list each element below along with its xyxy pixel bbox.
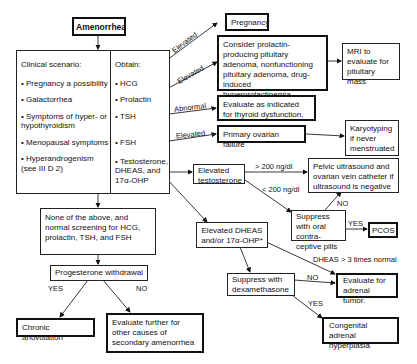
node-ovarian-failure: Primary ovarian failure <box>217 125 306 143</box>
edge-label-dexa-no: NO <box>307 273 318 282</box>
scenario-item: • Pregnancy a possibility <box>21 79 109 89</box>
edge-label-testo-low: < 200 ng/dl <box>262 185 299 194</box>
obtain-item: • Prolactin <box>115 95 170 105</box>
node-evaluate-further: Evaluate further for other causes of sec… <box>106 313 204 353</box>
edge-label-ocp-no: NO <box>337 199 348 208</box>
node-adrenal-tumor: Evaluate for adrenal tumor. <box>336 273 398 298</box>
node-prolactin-result: Consider prolactin-producing pituitary a… <box>217 35 328 91</box>
edge-label-dheas-high: DHEAS > 3 times normal <box>313 255 397 264</box>
assessment-box: Clinical scenario: • Pregnancy a possibi… <box>16 50 170 194</box>
scenario-item: • Hyperandrogenism (see III D 2) <box>21 154 109 173</box>
column-divider <box>110 51 111 193</box>
edge-label-prog-yes: YES <box>48 284 63 293</box>
obtain-item: • HCG <box>115 79 170 89</box>
node-none-of-above: None of the above, and normal screening … <box>40 208 156 255</box>
scenario-item: • Symptoms of hyper- or hypothyroidism <box>21 112 109 131</box>
node-suppress-ocp: Suppress with oral contra-ceptive pills <box>291 210 346 241</box>
edge-label-dexa-yes: YES <box>308 299 323 308</box>
obtain-column: Obtain: • HCG • Prolactin • TSH • FSH • … <box>115 60 170 192</box>
node-thyroid: Evaluate as indicated for thyroid dysfun… <box>217 95 316 121</box>
root-node-amenorrhea: Amenorrhea <box>72 17 126 36</box>
node-elevated-testosterone: Elevated testosterone <box>193 164 245 184</box>
node-mri: MRI to evaluate for pituitary mass <box>342 43 400 80</box>
edge-label-ocp-yes: YES <box>348 219 363 228</box>
scenario-item: • Galactorrhea <box>21 95 109 105</box>
obtain-item: • Testosterone, DHEAS, and 17α-OHP <box>115 157 170 186</box>
node-karyotyping: Karyotyping if never menstruated <box>345 120 399 156</box>
node-elevated-dheas: Elevated DHEAS and/or 17α-OHP* <box>196 222 268 248</box>
node-pelvic-ultrasound: Pelvic ultrasound and ovarian vein cathe… <box>308 158 399 193</box>
edge-label-prog-no: NO <box>136 284 147 293</box>
obtain-item: • TSH <box>115 112 170 122</box>
edge-label-testo-high: > 200 ng/dl <box>255 162 292 171</box>
clinical-scenario-heading: Clinical scenario: <box>21 60 109 70</box>
node-chronic-anovulation: Chronic anovulation <box>16 318 95 337</box>
node-pcos: PCOS <box>368 222 398 238</box>
node-pregnancy: Pregnancy <box>225 13 269 31</box>
node-cah: Congenital adrenal hyperplasia <box>322 317 399 344</box>
node-progesterone-withdrawal: Progesterone withdrawal <box>50 265 148 281</box>
clinical-scenario-column: Clinical scenario: • Pregnancy a possibi… <box>21 60 109 180</box>
obtain-heading: Obtain: <box>115 60 170 70</box>
scenario-item: • Menopausal symptoms <box>21 138 109 148</box>
node-suppress-dexamethasone: Suppress with dexamethasone <box>227 273 295 296</box>
obtain-item: • FSH <box>115 138 170 148</box>
